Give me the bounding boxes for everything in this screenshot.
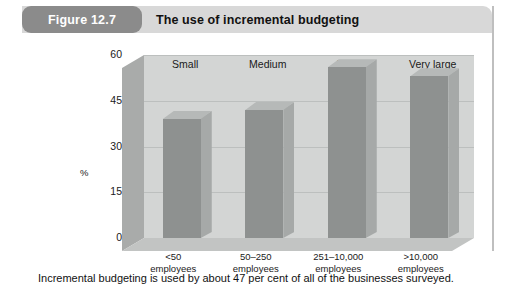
bar-column (245, 102, 294, 238)
bar-column (328, 59, 377, 238)
y-axis-tick-label: 45 (88, 94, 122, 106)
y-axis-tick-label: 30 (88, 140, 122, 152)
bar-front-face (245, 110, 283, 238)
figure-number-badge: Figure 12.7 (22, 6, 142, 33)
y-axis-tick-label: 15 (88, 185, 122, 197)
category-top-label: Medium (227, 58, 310, 70)
y-axis-tick-label: 0 (88, 231, 122, 243)
plot-floor (122, 238, 474, 251)
y-axis-tick-label: 60 (88, 48, 122, 60)
bar-front-face (410, 76, 448, 238)
plot-3d: SmallMediumLargeVery large (122, 55, 474, 251)
category-top-label: Small (144, 58, 227, 70)
bar-side-face (283, 102, 294, 238)
bar-side-face (366, 59, 377, 238)
category-axis-label-line: <50 (132, 251, 215, 263)
figure-header: Figure 12.7 The use of incremental budge… (22, 6, 492, 33)
plot-left-wall (122, 55, 144, 251)
gridline (144, 55, 474, 56)
category-axis-label-line: >10,000 (380, 251, 463, 263)
category-axis-label-line: 50–250 (215, 251, 298, 263)
bar-side-face (448, 68, 459, 238)
figure-caption: Incremental budgeting is used by about 4… (38, 272, 454, 284)
bar-front-face (163, 119, 201, 238)
bar-column (163, 111, 212, 238)
bar-front-face (328, 67, 366, 238)
bar-column (410, 68, 459, 238)
y-axis-ticks: 015304560 (78, 33, 122, 251)
chart-area: % 015304560 SmallMediumLargeVery large <… (22, 33, 492, 251)
category-axis-label-line: 251–10,000 (297, 251, 380, 263)
bar-side-face (201, 111, 212, 238)
figure-title: The use of incremental budgeting (156, 6, 359, 33)
